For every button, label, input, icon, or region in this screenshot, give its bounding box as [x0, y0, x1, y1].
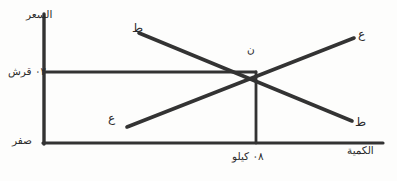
- demand-curve-line: [139, 33, 352, 121]
- demand-curve-label-start: ط: [132, 22, 143, 34]
- supply-curve-line: [127, 38, 354, 127]
- y-tick-label-twenty: ٢٠ قرش: [8, 67, 46, 78]
- x-axis-title: الكمية: [347, 146, 374, 157]
- diagram-canvas: [0, 0, 397, 181]
- supply-curve-label-end: ع: [358, 28, 365, 40]
- y-axis-title: السعر: [26, 10, 52, 21]
- supply-curve-label-start: ع: [108, 112, 115, 124]
- supply-demand-figure: السعر الكمية ٢٠ قرش صفر ٨٠ كيلو ط ط ع ع …: [0, 0, 397, 181]
- equilibrium-point-label: ن: [247, 45, 255, 56]
- y-tick-label-zero: صفر: [12, 136, 32, 147]
- demand-curve-label-end: ط: [355, 116, 366, 128]
- x-tick-label-eighty: ٨٠ كيلو: [232, 152, 264, 163]
